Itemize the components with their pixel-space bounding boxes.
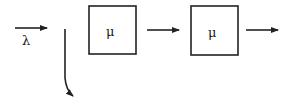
arrival-rate-label: λ xyxy=(22,33,30,48)
diagram-canvas xyxy=(0,0,295,104)
server-2-rate-label: μ xyxy=(208,25,216,40)
server-1-rate-label: μ xyxy=(106,24,114,39)
departure-branch-arrow xyxy=(65,29,73,96)
